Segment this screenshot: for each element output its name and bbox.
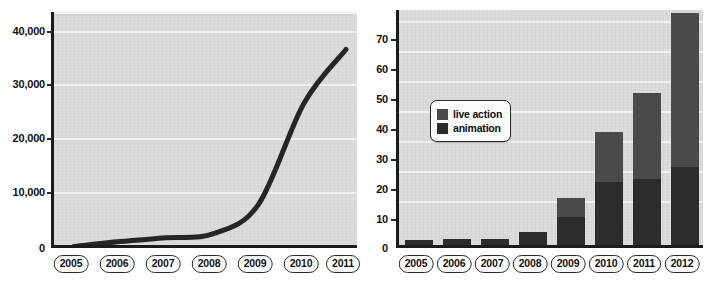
bar-segment-live-action-2012[interactable] [671,13,699,166]
x-axis-pill-2007[interactable]: 2007 [146,255,181,273]
bar-segment-animation-2010[interactable] [595,182,623,245]
bar-segment-animation-2006[interactable] [443,239,471,245]
bar-segment-animation-2011[interactable] [633,179,661,245]
bar-2009[interactable] [557,198,585,245]
bar-segment-live-action-2009[interactable] [557,198,585,217]
x-axis-pill-2005[interactable]: 2005 [54,255,89,273]
x-axis-pill-2011[interactable]: 2011 [326,255,360,273]
y-axis-label: 30 [360,153,388,165]
y-axis-tick [391,69,396,71]
x-axis-pill-2012[interactable]: 2012 [665,255,700,273]
y-axis-label: 20,000 [0,132,45,144]
left-plot-area [51,12,357,248]
x-axis-pill-2005[interactable]: 2005 [399,255,434,273]
legend-label-animation: animation [453,122,501,134]
x-axis-pill-2008[interactable]: 2008 [192,255,227,273]
y-axis-tick [391,159,396,161]
y-axis-label: 0 [360,242,388,254]
animation-swatch [437,123,448,134]
bar-segment-animation-2012[interactable] [671,167,699,245]
legend-item-animation: animation [437,122,502,134]
y-axis-label: 70 [360,33,388,45]
bar-segment-animation-2005[interactable] [405,240,433,245]
bar-2012[interactable] [671,13,699,245]
right-plot-area: live action animation [396,10,703,248]
x-axis-pill-2010[interactable]: 2010 [284,255,319,273]
y-axis-label: 60 [360,63,388,75]
x-axis-pill-2011[interactable]: 2011 [627,255,661,273]
y-axis-tick [391,39,396,41]
y-axis-label: 10,000 [0,186,45,198]
x-axis-pill-2006[interactable]: 2006 [100,255,135,273]
bar-2005[interactable] [405,240,433,245]
left-line-chart-panel: 0 10,000 20,000 30,000 40,000 2005 2006 … [0,0,360,283]
bar-2006[interactable] [443,239,471,245]
bar-segment-live-action-2010[interactable] [595,132,623,182]
y-axis-tick [391,189,396,191]
y-axis-label: 0 [0,242,45,254]
y-axis-label: 10 [360,213,388,225]
y-axis-label: 50 [360,93,388,105]
y-axis-tick [391,219,396,221]
y-axis-tick [47,31,52,33]
x-axis-pill-2010[interactable]: 2010 [589,255,624,273]
y-axis-label: 30,000 [0,78,45,90]
x-axis-pill-2008[interactable]: 2008 [513,255,548,273]
y-axis-label: 20 [360,183,388,195]
bar-segment-animation-2009[interactable] [557,217,585,245]
x-axis-pill-2009[interactable]: 2009 [551,255,586,273]
bar-segment-animation-2007[interactable] [481,239,509,245]
bar-2007[interactable] [481,239,509,245]
y-axis-tick [391,129,396,131]
y-axis-label: 40,000 [0,25,45,37]
bar-segment-live-action-2011[interactable] [633,93,661,179]
y-axis-tick [47,192,52,194]
chart-legend: live action animation [430,100,511,142]
y-axis-tick [47,84,52,86]
x-axis-pill-2007[interactable]: 2007 [475,255,510,273]
y-axis-tick [391,99,396,101]
bar-2011[interactable] [633,93,661,245]
bar-segment-animation-2008[interactable] [519,232,547,245]
line-series-path [54,12,357,248]
legend-label-live-action: live action [453,108,502,120]
right-bar-chart-panel: live action animation 0 10 20 30 40 50 6… [360,0,707,283]
bar-2008[interactable] [519,232,547,245]
y-axis-label: 40 [360,123,388,135]
bar-2010[interactable] [595,132,623,245]
x-axis-pill-2009[interactable]: 2009 [238,255,273,273]
y-axis-tick [47,138,52,140]
live-action-swatch [437,109,448,120]
dual-chart-figure: 0 10,000 20,000 30,000 40,000 2005 2006 … [0,0,707,283]
legend-item-live-action: live action [437,108,502,120]
x-axis-pill-2006[interactable]: 2006 [437,255,472,273]
